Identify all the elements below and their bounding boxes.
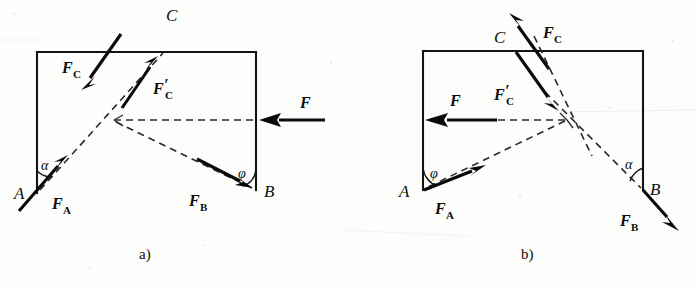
force-label-FA-a: F A xyxy=(51,195,71,216)
force-label-F-a: F xyxy=(299,94,311,111)
force-label-FC-a: F C xyxy=(61,59,81,80)
force-label-FB-a: F B xyxy=(188,192,208,213)
svg-text:F: F xyxy=(188,192,200,209)
dashed-C-through-O-b xyxy=(534,36,592,156)
vector-FB-b xyxy=(643,190,679,231)
svg-text:F: F xyxy=(493,86,505,103)
point-label-A-a: A xyxy=(13,184,25,203)
force-diagram-svg: A B C α φ F C F C ′ F A F B xyxy=(0,0,695,291)
svg-text:C: C xyxy=(554,33,562,45)
caption-a: a) xyxy=(139,246,151,263)
angle-label-phi-a: φ xyxy=(238,166,246,181)
panel-b: A B C φ α F C F C ′ F A F B xyxy=(398,13,679,263)
prime-mark-a: ′ xyxy=(164,76,169,93)
vector-FC-b xyxy=(509,13,549,69)
prime-mark-b: ′ xyxy=(505,82,510,99)
svg-text:F: F xyxy=(542,24,554,41)
dashed-lines-b xyxy=(426,36,641,188)
point-label-C-a: C xyxy=(166,6,178,25)
force-label-F-b: F xyxy=(449,92,461,109)
force-label-FA-b: F A xyxy=(434,200,454,221)
svg-text:F: F xyxy=(152,80,164,97)
angle-label-alpha-a: α xyxy=(41,158,49,173)
svg-text:B: B xyxy=(631,221,639,233)
point-label-B-a: B xyxy=(264,182,275,201)
point-label-B-b: B xyxy=(650,180,661,199)
svg-text:F: F xyxy=(61,59,73,76)
svg-text:B: B xyxy=(200,201,208,213)
svg-text:C: C xyxy=(73,68,81,80)
vector-F-b xyxy=(425,113,497,127)
svg-text:F: F xyxy=(619,212,631,229)
force-label-FC-b: F C xyxy=(542,24,562,45)
force-label-FB-b: F B xyxy=(619,212,639,233)
svg-text:F: F xyxy=(51,195,63,212)
svg-text:A: A xyxy=(446,209,454,221)
caption-b: b) xyxy=(521,246,534,263)
dashed-OA-b xyxy=(426,121,565,188)
point-label-A-b: A xyxy=(398,182,410,201)
svg-text:A: A xyxy=(63,204,71,216)
vector-FC-a xyxy=(81,34,121,90)
svg-text:F: F xyxy=(434,200,446,217)
force-label-FC-prime-a: F C ′ xyxy=(152,76,173,101)
figure-container: A B C α φ F C F C ′ F A F B xyxy=(0,0,695,291)
point-label-C-b: C xyxy=(494,28,506,47)
vector-F-a xyxy=(259,113,325,127)
vector-FC-prime-b xyxy=(516,52,559,111)
force-label-FC-prime-b: F C ′ xyxy=(493,82,514,107)
angle-label-alpha-b: α xyxy=(625,157,633,172)
vectors-b xyxy=(424,13,679,231)
dashed-O-to-B-b xyxy=(545,92,641,188)
panel-a: A B C α φ F C F C ′ F A F B xyxy=(13,6,325,263)
angle-label-phi-b: φ xyxy=(430,166,438,181)
